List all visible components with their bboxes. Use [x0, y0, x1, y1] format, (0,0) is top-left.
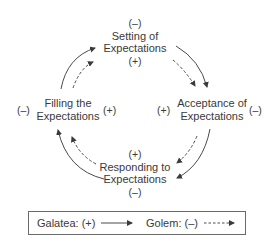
node-filling-expectations: Filling the Expectations [33, 97, 103, 122]
node-label: Setting of [95, 30, 175, 43]
legend-galatea-label: Galatea: (+) [37, 217, 95, 229]
golem-arrow-left-top [73, 62, 93, 88]
sign-right-right: (–) [249, 104, 262, 116]
node-label: Expectations [173, 110, 251, 123]
node-acceptance-expectations: Acceptance of Expectations [173, 97, 251, 122]
sign-left-right: (+) [103, 104, 116, 116]
node-label: Expectations [95, 42, 175, 55]
sign-bottom-above: (+) [95, 148, 175, 161]
sign-bottom-below: (–) [95, 186, 175, 199]
golem-arrow-top-right [173, 60, 195, 86]
node-label: Filling the [33, 97, 103, 110]
node-label: Responding to [95, 161, 175, 174]
galatea-arrow-right-bottom [177, 129, 210, 178]
sign-top-below: (+) [95, 55, 175, 68]
sign-top-above: (–) [95, 17, 175, 30]
sign-left-left: (–) [17, 104, 30, 116]
node-label: Acceptance of [173, 97, 251, 110]
legend-box: Galatea: (+) Golem: (–) [28, 211, 246, 235]
node-label: Expectations [95, 173, 175, 186]
node-label: Expectations [33, 110, 103, 123]
legend-golem-label: Golem: (–) [146, 217, 198, 229]
golem-arrow-right-bottom [177, 136, 197, 163]
node-setting-expectations: (–) Setting of Expectations (+) [95, 17, 175, 67]
galatea-arrow-left-top [61, 48, 95, 89]
node-responding-expectations: (+) Responding to Expectations (–) [95, 148, 175, 198]
golem-arrow-bottom-left [72, 137, 96, 164]
sign-right-left: (+) [157, 104, 170, 116]
